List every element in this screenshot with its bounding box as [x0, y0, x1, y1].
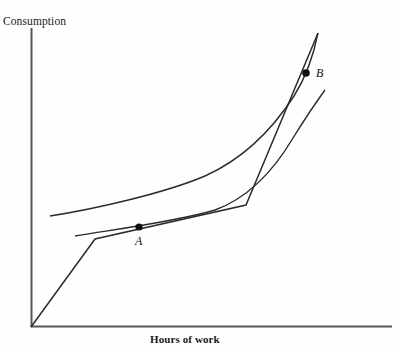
consumption-hours-of-work-diagram: Consumption Hours of work A B — [0, 0, 397, 350]
x-axis-label: Hours of work — [150, 333, 220, 345]
indifference-curve-lower — [75, 90, 325, 236]
point-b-label: B — [316, 66, 323, 81]
y-axis-label: Consumption — [3, 15, 66, 27]
point-a-marker — [135, 223, 142, 230]
plot-canvas — [0, 0, 397, 350]
axes-group — [31, 28, 392, 327]
point-b-marker — [302, 69, 310, 77]
indifference-curve-upper — [50, 33, 318, 216]
budget-constraint-line — [31, 33, 318, 327]
point-a-label: A — [135, 234, 142, 249]
